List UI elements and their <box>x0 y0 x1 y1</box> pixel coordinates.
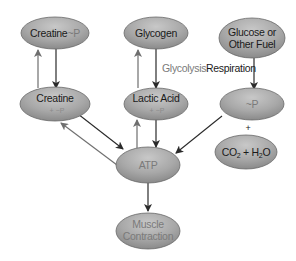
edge-label-glycolysis: Glycolysis <box>162 62 206 74</box>
node-muscle-contraction: Muscle Contraction <box>116 213 180 249</box>
svg-text:Creatine~P: Creatine~P <box>30 27 80 39</box>
co2-plus-h: + H <box>240 146 258 158</box>
h2o-o: O <box>262 146 270 158</box>
edge-atp-to-creatine <box>61 123 117 165</box>
plus-sign: + <box>246 123 251 133</box>
node-phosphate-label: ~P <box>246 98 259 110</box>
edge-phosphate-to-atp <box>176 116 222 153</box>
node-creatine-phosphate-label: Creatine <box>30 27 68 39</box>
svg-text:CO2 + H2O: CO2 + H2O <box>222 146 271 159</box>
node-atp-label: ATP <box>139 159 158 171</box>
node-glycogen: Glycogen <box>124 17 188 49</box>
co2-co: CO <box>222 146 237 158</box>
node-lactic-acid: Lactic Acid + ~P <box>124 88 188 120</box>
node-muscle-line2: Contraction <box>123 230 174 242</box>
node-glucose-line2: Other Fuel <box>229 38 276 50</box>
node-lactic-acid-label: Lactic Acid <box>133 92 180 104</box>
energy-pathway-diagram: Creatine~P Glycogen Glucose or Other Fue… <box>0 0 296 261</box>
node-creatine-phosphate-suffix: ~P <box>67 27 80 39</box>
node-glycogen-label: Glycogen <box>135 27 177 39</box>
node-muscle-line1: Muscle <box>132 218 164 230</box>
node-creatine-label: Creatine <box>36 92 74 104</box>
node-phosphate: ~P <box>220 88 284 120</box>
edge-label-respiration: Respiration <box>206 62 256 74</box>
node-co2-h2o: CO2 + H2O <box>215 135 277 169</box>
node-glucose-line1: Glucose or <box>228 26 277 38</box>
node-atp: ATP <box>116 147 180 183</box>
node-creatine: Creatine + ~P <box>20 87 90 121</box>
node-glucose-or-other-fuel: Glucose or Other Fuel <box>219 18 285 58</box>
edge-creatine-to-atp <box>78 114 123 149</box>
node-creatine-phosphate: Creatine~P <box>21 17 89 49</box>
node-lactic-acid-sub: + ~P <box>150 107 165 114</box>
node-creatine-sub: + ~P <box>50 107 65 114</box>
